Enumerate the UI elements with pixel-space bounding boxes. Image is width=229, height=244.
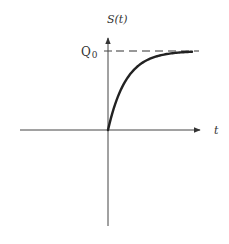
q0-subscript: 0 xyxy=(92,50,98,60)
y-axis-label: S(t) xyxy=(107,13,128,26)
q0-label: Q0 xyxy=(81,45,98,60)
saturation-curve xyxy=(108,52,192,130)
q0-main: Q xyxy=(81,45,91,59)
x-axis-label: t xyxy=(214,124,219,137)
chart: S(t) Q0 t xyxy=(0,0,229,244)
